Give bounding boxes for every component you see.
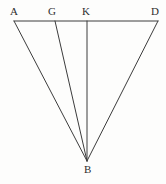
segments-group <box>14 21 158 161</box>
vertex-label-k: K <box>82 6 90 17</box>
figure-canvas <box>0 0 166 184</box>
segment-GB <box>55 21 87 161</box>
segment-DB <box>87 21 158 161</box>
geometry-figure: A G K D B <box>0 0 166 184</box>
vertex-label-g: G <box>48 6 56 17</box>
segment-AB <box>14 21 87 161</box>
vertex-label-a: A <box>10 6 18 17</box>
vertex-label-b: B <box>84 164 91 175</box>
vertex-label-d: D <box>151 6 159 17</box>
